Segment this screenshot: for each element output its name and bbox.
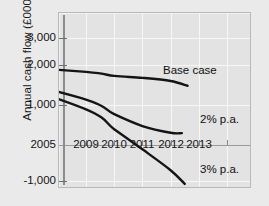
y-tick-label-1000: 1,000 [10,98,56,110]
y-axis-tick-labels: 3,000 2,000 1,000 2005 -1,000 [0,0,56,206]
x-tick-label-2009: 2009 [72,138,100,150]
x-tick-label-2012: 2012 [157,138,185,150]
y-tick-label-3000: 3,000 [10,31,56,43]
x-tick-label-2011: 2011 [128,138,156,150]
x-tick-label-2013: 2013 [185,138,213,150]
y-tick-label-neg1000: -1,000 [10,174,56,186]
x-tick-label-2010: 2010 [100,138,128,150]
plot-area [58,12,251,188]
series-label-2pct: 2% p.a. [200,113,239,125]
chart-container: Annual cash flow (£000) 3,000 2,000 1,00… [0,0,269,206]
y-tick-label-2000: 2,000 [10,58,56,70]
series-lines [59,13,250,187]
series-line-3pct [59,72,185,184]
plot-inner [59,13,250,187]
series-label-base-case: Base case [163,64,217,76]
series-label-3pct: 3% p.a. [200,163,239,175]
y-tick-label-2005: 2005 [10,138,56,150]
